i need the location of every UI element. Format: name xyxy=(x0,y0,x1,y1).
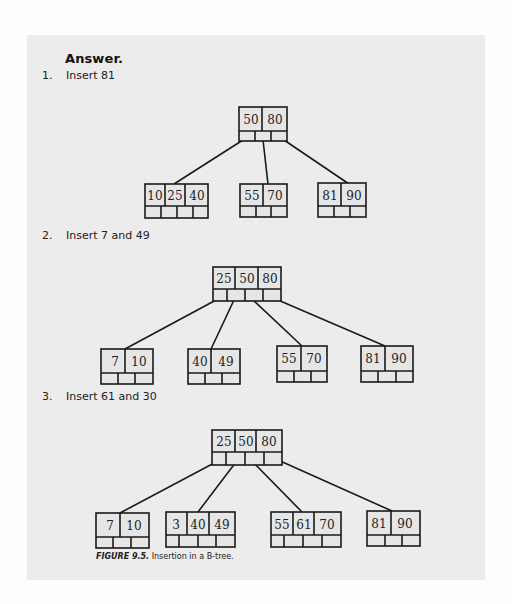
key: 3 xyxy=(172,518,180,532)
key: 25 xyxy=(216,435,231,449)
page: Answer. 1. Insert 81 2. Insert 7 and 49 … xyxy=(0,0,512,604)
key: 7 xyxy=(106,519,114,533)
edge xyxy=(278,460,392,511)
edge xyxy=(174,140,243,184)
key: 81 xyxy=(371,517,386,531)
key: 50 xyxy=(239,272,254,286)
b-tree-diagrams: 50 80 10 25 40 55 70 81 90 25 50 80 7 10… xyxy=(0,0,512,604)
key: 80 xyxy=(262,272,277,286)
tree-2 xyxy=(101,267,413,384)
key: 70 xyxy=(306,352,321,366)
key: 10 xyxy=(147,189,162,203)
key: 90 xyxy=(397,517,412,531)
key: 50 xyxy=(243,113,258,127)
key: 70 xyxy=(319,518,334,532)
edge xyxy=(125,300,216,349)
key: 10 xyxy=(126,519,141,533)
key: 61 xyxy=(296,518,311,532)
key: 7 xyxy=(111,355,119,369)
edge xyxy=(211,300,234,349)
key: 90 xyxy=(346,189,361,203)
edge xyxy=(263,140,268,184)
key: 55 xyxy=(244,189,259,203)
key: 80 xyxy=(261,435,276,449)
key: 25 xyxy=(167,189,182,203)
figure-label: FIGURE 9.5. xyxy=(96,552,149,561)
key: 10 xyxy=(131,355,146,369)
edge xyxy=(198,462,236,512)
key: 55 xyxy=(274,518,289,532)
edge xyxy=(120,462,216,513)
key: 81 xyxy=(365,352,380,366)
key: 81 xyxy=(322,189,337,203)
figure-caption: FIGURE 9.5. Insertion in a B-tree. xyxy=(96,552,234,561)
key: 40 xyxy=(192,355,207,369)
figure-caption-text: Insertion in a B-tree. xyxy=(149,552,234,561)
key: 40 xyxy=(189,189,204,203)
key: 49 xyxy=(214,518,229,532)
key: 50 xyxy=(238,435,253,449)
key: 90 xyxy=(391,352,406,366)
edge xyxy=(284,140,349,184)
key: 49 xyxy=(218,355,233,369)
key: 25 xyxy=(216,272,231,286)
key: 55 xyxy=(281,352,296,366)
key: 80 xyxy=(267,113,282,127)
key: 40 xyxy=(190,518,205,532)
key: 70 xyxy=(267,189,282,203)
edge xyxy=(253,462,302,512)
